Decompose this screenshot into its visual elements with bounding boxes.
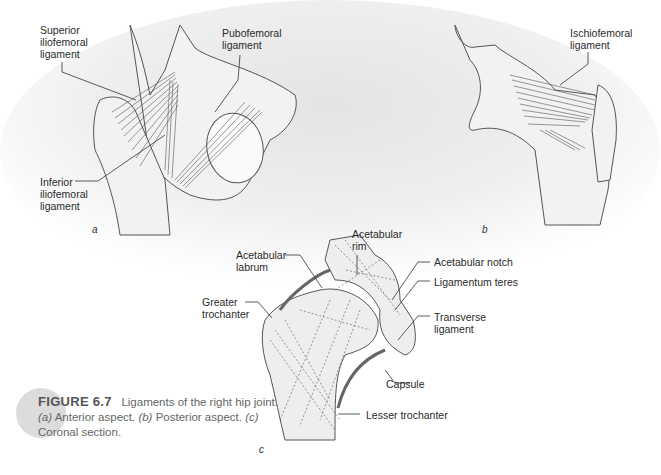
label-lesser-trochanter: Lesser trochanter [366, 409, 448, 421]
caption-part-c-text: Coronal section. [38, 426, 121, 438]
figure-number: FIGURE 6.7 [38, 394, 112, 409]
caption-part-a-text: Anterior aspect. [55, 411, 136, 423]
label-greater-trochanter: Greater trochanter [202, 296, 249, 320]
caption-part-b-tag: (b) [138, 411, 152, 423]
caption-part-b-text: Posterior aspect. [156, 411, 242, 423]
label-acetabular-labrum: Acetabular labrum [236, 249, 286, 273]
label-capsule: Capsule [386, 378, 425, 390]
label-acetabular-notch: Acetabular notch [434, 256, 513, 268]
label-acetabular-rim: Acetabular rim [352, 228, 402, 252]
label-transverse-ligament: Transverse ligament [434, 311, 486, 335]
figure-caption: FIGURE 6.7 Ligaments of the right hip jo… [38, 394, 278, 440]
caption-part-a-tag: (a) [38, 411, 52, 423]
caption-lead: Ligaments of the right hip joint. [121, 396, 278, 408]
label-ligamentum-teres: Ligamentum teres [434, 276, 518, 288]
panel-letter-c: c [259, 444, 264, 455]
caption-part-c-tag: (c) [245, 411, 258, 423]
